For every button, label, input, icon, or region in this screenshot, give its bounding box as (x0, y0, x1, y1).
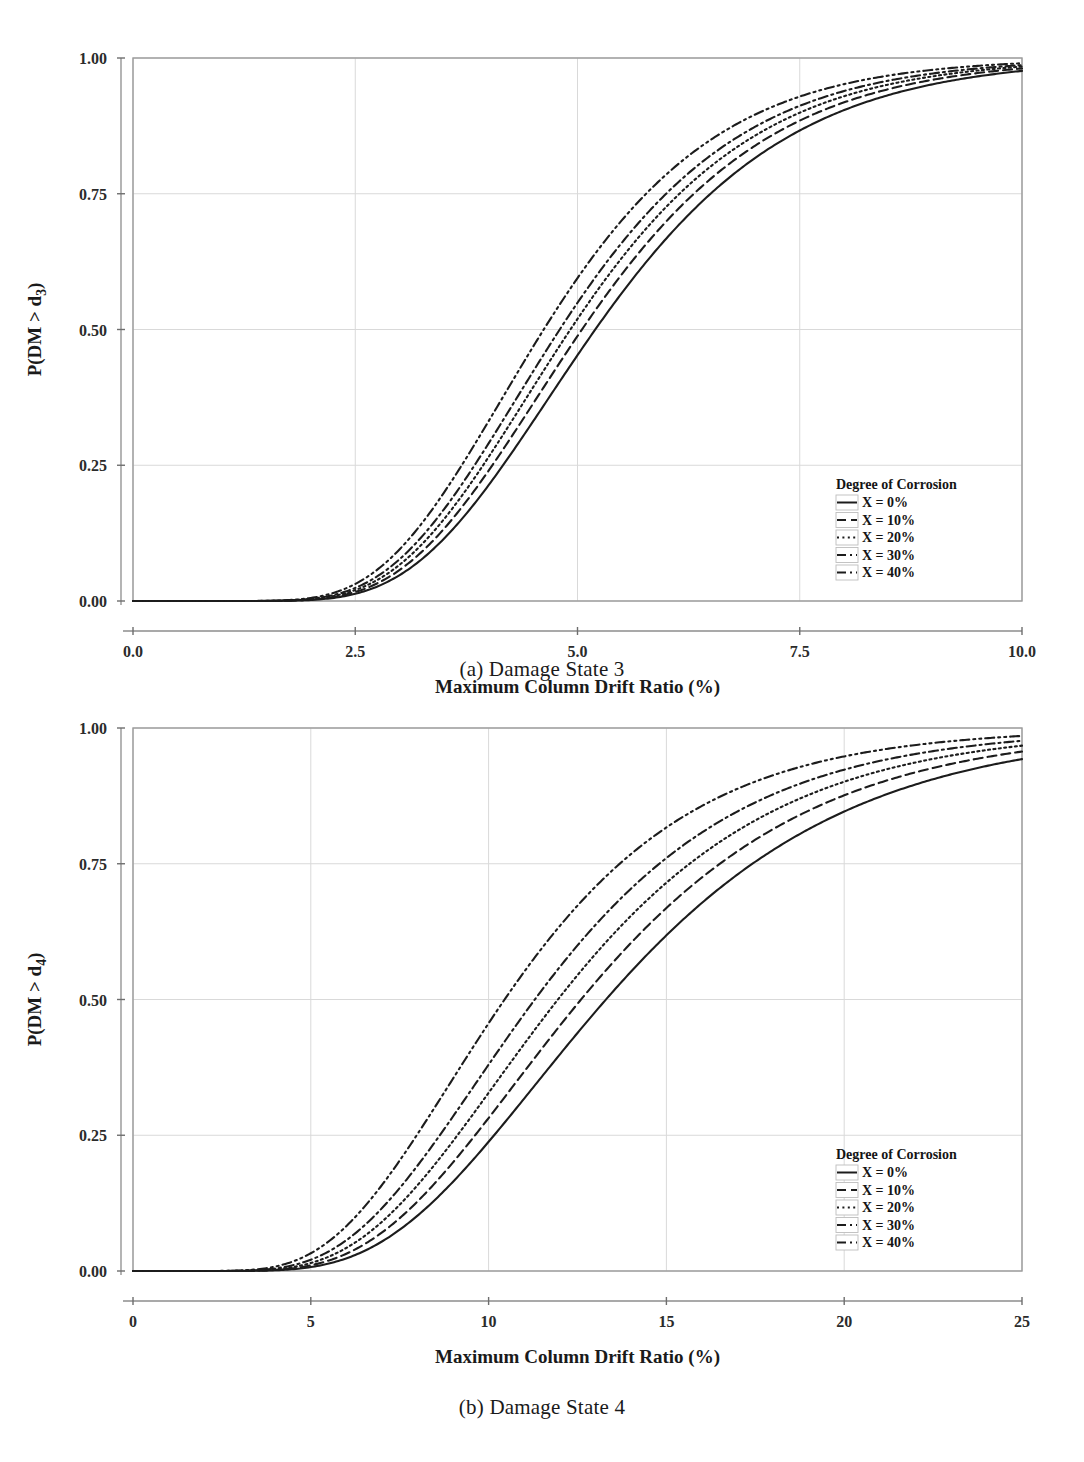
x-tick-label: 0 (129, 1313, 137, 1330)
legend: Degree of CorrosionX = 0%X = 10%X = 20%X… (836, 477, 957, 580)
x-tick-label: 20 (836, 1313, 852, 1330)
caption-damage-state-3: (a) Damage State 3 (0, 657, 1084, 682)
legend-label: X = 0% (862, 1165, 908, 1180)
y-tick-label: 0.75 (79, 856, 107, 873)
y-tick-label: 0.75 (79, 186, 107, 203)
x-tick-label: 5 (307, 1313, 315, 1330)
y-tick-label: 0.00 (79, 593, 107, 610)
y-tick-label: 0.50 (79, 322, 107, 339)
legend-title: Degree of Corrosion (836, 477, 957, 492)
panel-damage-state-3: 0.02.55.07.510.00.000.250.500.751.00Maxi… (0, 0, 1084, 700)
legend-label: X = 40% (862, 1235, 915, 1250)
y-axis-title: P(DM > d3) (24, 283, 49, 377)
y-axis-ticks: 0.000.250.500.751.00 (79, 720, 125, 1280)
x-axis-ticks: 0.02.55.07.510.0 (123, 627, 1036, 660)
y-axis-ticks: 0.000.250.500.751.00 (79, 50, 125, 610)
x-tick-label: 15 (658, 1313, 674, 1330)
legend-label: X = 30% (862, 1218, 915, 1233)
legend-title: Degree of Corrosion (836, 1147, 957, 1162)
x-axis-ticks: 0510152025 (129, 1297, 1030, 1330)
legend-label: X = 20% (862, 530, 915, 545)
y-tick-label: 1.00 (79, 50, 107, 67)
legend-label: X = 40% (862, 565, 915, 580)
panel-damage-state-4: 05101520250.000.250.500.751.00Maximum Co… (0, 700, 1084, 1462)
chart-damage-state-3: 0.02.55.07.510.00.000.250.500.751.00Maxi… (0, 0, 1084, 700)
y-axis-title: P(DM > d4) (24, 953, 49, 1047)
y-tick-label: 0.25 (79, 1127, 107, 1144)
y-tick-label: 0.50 (79, 992, 107, 1009)
x-axis-title: Maximum Column Drift Ratio (%) (435, 1346, 720, 1368)
y-tick-label: 0.00 (79, 1263, 107, 1280)
caption-damage-state-4: (b) Damage State 4 (0, 1395, 1084, 1420)
legend-label: X = 20% (862, 1200, 915, 1215)
x-tick-label: 25 (1014, 1313, 1030, 1330)
legend-label: X = 0% (862, 495, 908, 510)
legend-label: X = 10% (862, 1183, 915, 1198)
legend-label: X = 10% (862, 513, 915, 528)
chart-damage-state-4: 05101520250.000.250.500.751.00Maximum Co… (0, 700, 1084, 1462)
y-tick-label: 1.00 (79, 720, 107, 737)
legend-label: X = 30% (862, 548, 915, 563)
y-tick-label: 0.25 (79, 457, 107, 474)
fragility-curves-figure: 0.02.55.07.510.00.000.250.500.751.00Maxi… (0, 0, 1084, 1462)
x-tick-label: 10 (481, 1313, 497, 1330)
legend: Degree of CorrosionX = 0%X = 10%X = 20%X… (836, 1147, 957, 1250)
